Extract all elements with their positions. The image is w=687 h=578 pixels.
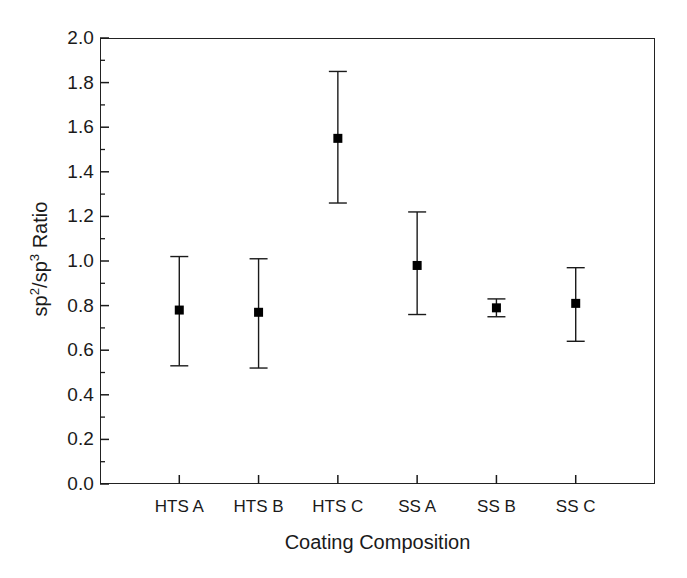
x-tick-label: SS C (556, 498, 596, 515)
y-title-tail: Ratio (29, 202, 51, 254)
x-axis-title: Coating Composition (100, 531, 655, 553)
x-tick-label: SS A (398, 498, 436, 515)
y-title-base: sp (29, 295, 51, 316)
y-title-sup-3: 3 (27, 254, 42, 261)
y-title-mid: /sp (29, 261, 51, 288)
y-title-sup-2: 2 (27, 288, 42, 295)
x-tick-label: SS B (477, 498, 516, 515)
x-tick-label: HTS A (155, 498, 204, 515)
x-tick-label: HTS C (312, 498, 363, 515)
x-axis-tick-labels: HTS AHTS BHTS CSS ASS BSS C (0, 0, 687, 578)
x-tick-label: HTS B (234, 498, 284, 515)
chart-figure: 0.00.20.40.60.81.01.21.41.61.82.0 HTS AH… (0, 0, 687, 578)
y-axis-title: sp2/sp3 Ratio (29, 134, 51, 384)
